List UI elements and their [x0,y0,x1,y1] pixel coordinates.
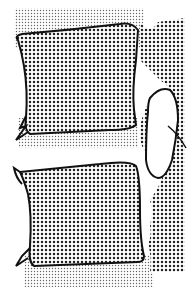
upper-vertebral-body [17,24,138,134]
lower-vertebral-body [20,162,144,266]
spine-diagram [0,0,193,289]
